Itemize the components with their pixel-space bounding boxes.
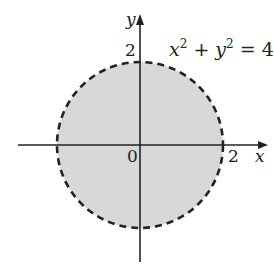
y-tick-label: 2 — [125, 40, 136, 60]
y-axis-arrow-icon — [136, 14, 144, 25]
x-tick-label: 2 — [228, 146, 239, 166]
equation-y-exponent: 2 — [226, 37, 234, 51]
equation-x-exponent: 2 — [180, 37, 188, 51]
equation-plus: + — [187, 38, 215, 60]
circle-diagram: y 2 0 2 x x2 + y2 = 4 — [0, 0, 274, 278]
equation-y: y — [214, 38, 226, 60]
equation-x: x — [169, 38, 180, 60]
x-axis-label: x — [255, 146, 265, 166]
circle-equation: x2 + y2 = 4 — [169, 37, 274, 60]
y-axis-label: y — [125, 9, 136, 29]
equation-rhs: = 4 — [234, 38, 274, 60]
origin-label: 0 — [127, 146, 138, 166]
